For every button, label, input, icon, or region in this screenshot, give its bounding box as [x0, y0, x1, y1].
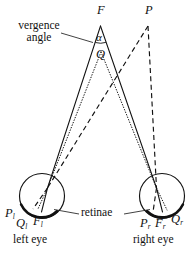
right-eye-image-point-P-letter: P [140, 216, 148, 230]
right-eye-image-point-Q-subscript: r [180, 219, 183, 227]
ray-inside-right-eye-Q [157, 188, 168, 210]
right-eye-image-point-F-letter: F [155, 216, 163, 230]
ray-inside-right-eye-P [153, 188, 157, 212]
point-label-F: F [97, 4, 105, 17]
left-eye-image-point-P-subscript: l [13, 213, 15, 221]
object-rays-dashed [33, 26, 157, 212]
retinae-annotation: retinae [81, 207, 112, 219]
right-eye-image-point-Q-letter: Q [171, 212, 180, 226]
left-eye-image-point-P-letter: P [5, 206, 13, 220]
point-label-Q: Q [96, 48, 105, 61]
midpoint-rays-dotted [38, 52, 168, 210]
left-eye-image-point-F-letter: F [33, 214, 41, 228]
right-eye-image-point-P: Pr [140, 217, 150, 230]
right-eye-image-point-F: Fr [155, 217, 165, 230]
right-eye-caption: right eye [133, 234, 174, 246]
left-eye-image-point-F-subscript: l [41, 221, 43, 229]
vergence-angle-annotation-line2: angle [6, 32, 72, 44]
left-eye-image-point-Q: Ql [16, 217, 27, 230]
binocular-vergence-diagram: F P α Q vergence angle retinae Pl Ql Fl … [0, 0, 195, 254]
ray-F-to-left-eye [48, 26, 101, 188]
left-eye-image-point-F: Fl [33, 215, 43, 228]
ray-Q-to-left-eye [48, 52, 102, 188]
left-eye-caption: left eye [13, 234, 47, 246]
vergence-angle-symbol: α [96, 32, 102, 43]
ray-F-to-right-eye [101, 26, 157, 188]
vergence-angle-annotation-line1: vergence [6, 20, 72, 32]
point-label-P: P [145, 4, 153, 17]
left-eye-image-point-Q-letter: Q [16, 216, 25, 230]
right-eye-image-point-F-subscript: r [163, 223, 166, 231]
ray-Q-to-right-eye [101, 52, 157, 188]
vergence-angle-annotation: vergence angle [6, 20, 72, 43]
ray-P-to-right-eye [148, 26, 157, 188]
right-eye-image-point-P-subscript: r [148, 223, 151, 231]
right-eye-image-point-Q: Qr [171, 213, 183, 226]
left-eye-image-point-P: Pl [5, 207, 15, 220]
left-eye-image-point-Q-subscript: l [25, 223, 27, 231]
ray-inside-right-eye-F [157, 188, 163, 212]
